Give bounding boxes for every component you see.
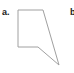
pentagon-shape (0, 0, 74, 73)
